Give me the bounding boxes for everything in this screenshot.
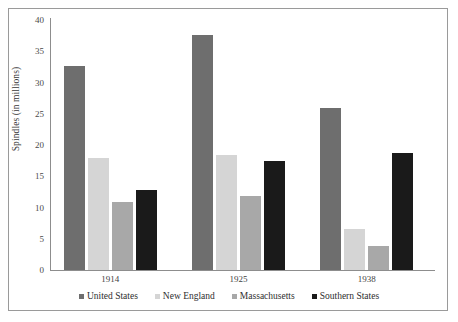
x-tick-label: 1938: [358, 274, 376, 284]
legend-label: New England: [163, 291, 215, 301]
bar: [64, 66, 85, 270]
y-tick-label: 35: [22, 47, 44, 56]
bar: [392, 153, 413, 270]
bar: [320, 108, 341, 271]
bar: [240, 196, 261, 270]
legend-swatch-icon: [312, 294, 317, 299]
x-axis-line: [50, 270, 435, 271]
bar: [112, 202, 133, 270]
bar: [216, 155, 237, 270]
y-tick-label: 10: [22, 203, 44, 212]
y-axis-title: Spindles (in millions): [11, 49, 21, 169]
bar: [344, 229, 365, 270]
y-tick-label: 30: [22, 78, 44, 87]
bar: [136, 190, 157, 270]
y-tick-label: 15: [22, 172, 44, 181]
x-tick-label: 1925: [230, 274, 248, 284]
legend-label: Massachusetts: [240, 291, 295, 301]
legend-item[interactable]: United States: [79, 291, 138, 301]
legend-item[interactable]: New England: [155, 291, 215, 301]
y-tick-label: 5: [22, 234, 44, 243]
bar: [192, 35, 213, 270]
legend-item[interactable]: Southern States: [312, 291, 379, 301]
y-axis-ticks: 0510152025303540: [22, 20, 44, 270]
legend-swatch-icon: [155, 294, 160, 299]
legend-label: Southern States: [320, 291, 379, 301]
bar: [88, 158, 109, 270]
legend-item[interactable]: Massachusetts: [232, 291, 295, 301]
chart-legend: United StatesNew EnglandMassachusettsSou…: [0, 291, 458, 301]
legend-label: United States: [87, 291, 138, 301]
y-tick-label: 0: [22, 266, 44, 275]
bar: [368, 246, 389, 270]
x-tick-label: 1914: [101, 274, 119, 284]
bar: [264, 161, 285, 270]
bars-layer: [50, 20, 435, 270]
y-tick-label: 40: [22, 16, 44, 25]
y-tick-label: 20: [22, 141, 44, 150]
legend-swatch-icon: [79, 294, 84, 299]
legend-swatch-icon: [232, 294, 237, 299]
y-tick-label: 25: [22, 109, 44, 118]
chart-figure: Spindles (in millions) 0510152025303540 …: [0, 0, 458, 322]
